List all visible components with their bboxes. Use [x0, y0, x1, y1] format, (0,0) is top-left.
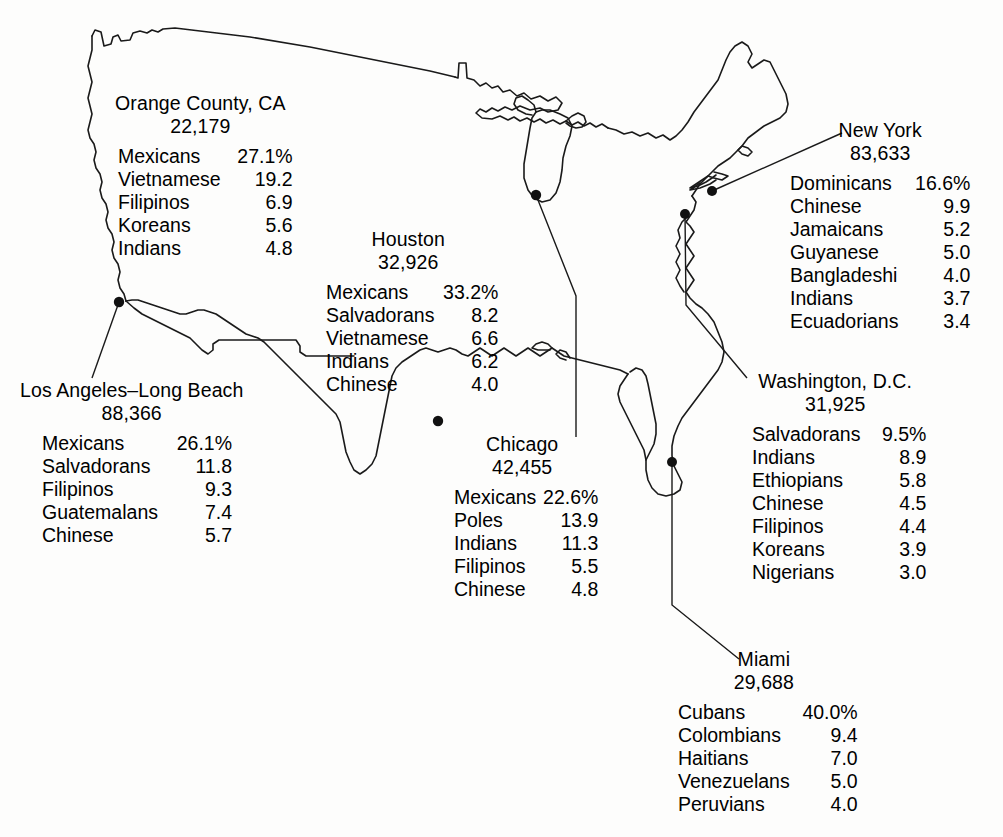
group-name: Mexicans [118, 145, 221, 168]
group-name: Chinese [790, 195, 898, 218]
city-count: 22,179 [108, 115, 293, 138]
table-row: Bangladeshi 4.0 [790, 264, 970, 287]
table-row: Indians 11.3 [454, 532, 598, 555]
group-value: 11.3 [536, 532, 598, 555]
marker-new-york [707, 186, 717, 196]
marker-houston [433, 416, 443, 426]
group-name: Nigerians [752, 561, 860, 584]
city-count: 42,455 [446, 456, 598, 479]
table-row: Chinese 5.7 [42, 524, 232, 547]
group-value: 7.4 [158, 501, 232, 524]
group-value: 5.8 [860, 469, 926, 492]
callout-orange-county: Orange County, CA 22,179 Mexicans 27.1% … [108, 92, 293, 260]
marker-chicago [531, 190, 541, 200]
group-value: 5.5 [536, 555, 598, 578]
leader-line-miami [672, 462, 739, 659]
group-name: Cubans [678, 701, 790, 724]
city-name: Houston [318, 228, 498, 251]
group-value: 4.8 [536, 578, 598, 601]
group-value: 19.2 [221, 168, 293, 191]
callout-chicago: Chicago 42,455 Mexicans 22.6% Poles 13.9… [446, 433, 598, 601]
group-name: Koreans [118, 214, 221, 237]
city-name: Miami [670, 648, 858, 671]
city-name: Chicago [446, 433, 598, 456]
table-row: Mexicans 26.1% [42, 432, 232, 455]
group-name: Filipinos [454, 555, 536, 578]
group-value: 8.2 [434, 304, 498, 327]
group-value: 3.0 [860, 561, 926, 584]
group-value: 3.7 [898, 287, 970, 310]
group-name: Salvadorans [752, 423, 860, 446]
group-name: Guatemalans [42, 501, 158, 524]
callout-miami: Miami 29,688 Cubans 40.0% Colombians 9.4… [670, 648, 858, 816]
group-value: 22.6% [536, 486, 598, 509]
group-name: Poles [454, 509, 536, 532]
group-table: Mexicans 33.2% Salvadorans 8.2 Vietnames… [326, 281, 498, 396]
group-name: Jamaicans [790, 218, 898, 241]
table-row: Nigerians 3.0 [752, 561, 926, 584]
table-row: Indians 3.7 [790, 287, 970, 310]
table-row: Mexicans 33.2% [326, 281, 498, 304]
table-row: Venezuelans 5.0 [678, 770, 858, 793]
group-name: Peruvians [678, 793, 790, 816]
table-row: Filipinos 9.3 [42, 478, 232, 501]
group-table: Mexicans 27.1% Vietnamese 19.2 Filipinos… [118, 145, 293, 260]
table-row: Vietnamese 19.2 [118, 168, 293, 191]
group-table: Cubans 40.0% Colombians 9.4 Haitians 7.0… [678, 701, 858, 816]
city-name: Orange County, CA [108, 92, 293, 115]
table-row: Guyanese 5.0 [790, 241, 970, 264]
group-name: Venezuelans [678, 770, 790, 793]
group-value: 27.1% [221, 145, 293, 168]
group-name: Chinese [454, 578, 536, 601]
group-name: Vietnamese [326, 327, 434, 350]
group-name: Mexicans [326, 281, 434, 304]
group-name: Indians [454, 532, 536, 555]
callout-new-york: New York 83,633 Dominicans 16.6% Chinese… [790, 119, 970, 333]
city-count: 32,926 [318, 251, 498, 274]
table-row: Chinese 4.8 [454, 578, 598, 601]
group-value: 33.2% [434, 281, 498, 304]
table-row: Chinese 4.5 [752, 492, 926, 515]
group-table: Mexicans 22.6% Poles 13.9 Indians 11.3 F… [454, 486, 598, 601]
group-value: 7.0 [790, 747, 858, 770]
city-name: Washington, D.C. [744, 370, 926, 393]
group-name: Koreans [752, 538, 860, 561]
callout-washington-dc: Washington, D.C. 31,925 Salvadorans 9.5%… [744, 370, 926, 584]
table-row: Mexicans 22.6% [454, 486, 598, 509]
group-name: Salvadorans [42, 455, 158, 478]
group-name: Guyanese [790, 241, 898, 264]
group-value: 40.0% [790, 701, 858, 724]
group-value: 3.9 [860, 538, 926, 561]
group-value: 4.8 [221, 237, 293, 260]
table-row: Ethiopians 5.8 [752, 469, 926, 492]
group-value: 4.0 [434, 373, 498, 396]
group-name: Filipinos [752, 515, 860, 538]
group-value: 8.9 [860, 446, 926, 469]
table-row: Chinese 9.9 [790, 195, 970, 218]
table-row: Dominicans 16.6% [790, 172, 970, 195]
city-name: Los Angeles–Long Beach [20, 379, 243, 402]
group-name: Vietnamese [118, 168, 221, 191]
group-name: Colombians [678, 724, 790, 747]
city-count: 83,633 [790, 142, 970, 165]
group-value: 9.9 [898, 195, 970, 218]
group-name: Indians [790, 287, 898, 310]
group-name: Mexicans [42, 432, 158, 455]
table-row: Indians 4.8 [118, 237, 293, 260]
city-count: 31,925 [744, 393, 926, 416]
city-count: 88,366 [20, 402, 243, 425]
table-row: Filipinos 4.4 [752, 515, 926, 538]
group-value: 5.6 [221, 214, 293, 237]
group-name: Chinese [752, 492, 860, 515]
group-value: 5.0 [898, 241, 970, 264]
marker-los-angeles [114, 297, 124, 307]
city-count: 29,688 [670, 671, 858, 694]
group-name: Dominicans [790, 172, 898, 195]
group-value: 4.0 [790, 793, 858, 816]
group-name: Indians [326, 350, 434, 373]
table-row: Haitians 7.0 [678, 747, 858, 770]
table-row: Koreans 3.9 [752, 538, 926, 561]
group-name: Ecuadorians [790, 310, 898, 333]
group-name: Indians [118, 237, 221, 260]
group-value: 6.2 [434, 350, 498, 373]
